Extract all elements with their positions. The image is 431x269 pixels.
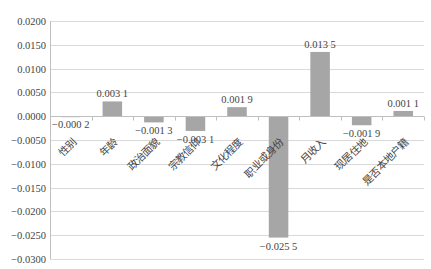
category-label: 性别 (56, 136, 79, 159)
category-label: 现居住地 (332, 135, 369, 172)
y-tick-label: −0.0250 (11, 230, 46, 241)
category-label: 政治面貌 (125, 135, 162, 172)
y-tick-label: −0.0100 (11, 159, 46, 170)
y-tick-label: 0.0000 (17, 111, 46, 122)
data-label: −0.000 2 (52, 119, 89, 130)
bar-chart: 0.02000.01500.01000.00500.0000−0.0050−0.… (0, 0, 431, 269)
bar (227, 107, 247, 116)
y-tick-label: −0.0050 (11, 135, 46, 146)
y-tick-label: −0.0300 (11, 254, 46, 265)
bar (103, 101, 123, 116)
bar (186, 116, 206, 131)
y-tick-label: 0.0100 (17, 64, 46, 75)
data-label: 0.013 5 (304, 39, 336, 50)
y-axis: 0.02000.01500.01000.00500.0000−0.0050−0.… (11, 16, 50, 265)
y-tick-label: −0.0150 (11, 183, 46, 194)
data-label: 0.001 1 (387, 98, 419, 109)
bar (352, 116, 372, 125)
bar (269, 116, 289, 237)
data-label: −0.025 5 (260, 241, 297, 252)
y-tick-label: −0.0200 (11, 206, 46, 217)
y-tick-label: 0.0200 (17, 16, 46, 27)
bar (144, 116, 164, 122)
data-label: 0.003 1 (97, 88, 129, 99)
y-tick-label: 0.0150 (17, 40, 46, 51)
category-labels: 性别年龄政治面貌宗教信仰文化程度职业或身份月收入现居住地是否本地户籍 (56, 135, 411, 187)
category-label: 月收入 (298, 135, 328, 165)
y-tick-label: 0.0050 (17, 87, 46, 98)
data-label: 0.001 9 (221, 94, 253, 105)
bar (310, 52, 330, 116)
bar (393, 111, 413, 116)
data-label: −0.001 3 (135, 125, 172, 136)
category-label: 年龄 (97, 135, 120, 158)
